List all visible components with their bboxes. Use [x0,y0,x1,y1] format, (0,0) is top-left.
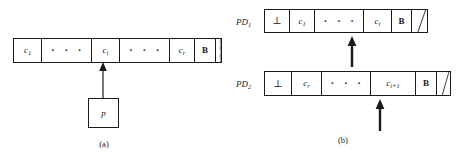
pointer-arrow-icon [95,62,111,99]
pd1-label: PD1 [236,17,251,27]
pd2-label-text: PD [236,79,248,89]
pd1-label-text: PD [236,17,248,27]
cell-symbol: · · · [320,16,357,27]
pd1-tape: ⊥ c1 · · · ci B [264,9,428,33]
pd1-label-sub: 1 [248,21,251,28]
panel-b-caption: (b) [322,135,364,145]
pd2-head-arrow [373,99,387,131]
pd2-label: PD2 [236,79,251,89]
caption-text: (b) [338,135,348,145]
cell-symbol: ci+1 [386,79,399,88]
pointer-arrow [95,62,111,99]
tape-torn-edge [412,10,427,32]
cell-symbol: ⊥ [273,79,282,89]
tape-cell[interactable]: cr [170,39,195,62]
panel-a-caption: (a) [83,139,125,149]
tape-cell[interactable]: c1 [290,10,315,32]
panel-b: PD1 ⊥ c1 · · · ci B [232,0,463,158]
tape-cell[interactable]: · · · [322,72,371,95]
panel-a: c1 · · · ci · · · cr B [0,0,232,158]
pd2-head-arrow-icon [373,99,387,131]
tape-cell[interactable]: ci+1 [371,72,416,95]
torn-edge-icon [413,10,427,32]
figure-root: c1 · · · ci · · · cr B [0,0,463,158]
pd1-head-arrow-icon [345,36,359,67]
tape-cell[interactable]: ci [92,39,120,62]
pd2-tape: ⊥ cr · · · ci+1 B [264,71,451,96]
cell-symbol: c1 [24,46,31,55]
tape-cell-blank[interactable]: B [195,39,216,62]
cell-symbol: ⊥ [272,16,281,26]
tape-cell[interactable]: ⊥ [265,72,292,95]
cell-symbol: B [202,46,208,55]
tape-torn-edge [216,39,221,62]
cell-symbol: · · · [126,45,163,56]
tape-cell-blank[interactable]: B [392,10,412,32]
cell-symbol: · · · [327,78,364,89]
pd2-label-sub: 2 [248,83,251,90]
tape-cell[interactable]: c1 [14,39,42,62]
tape-cell-blank[interactable]: B [416,72,437,95]
pointer-box[interactable]: p [88,98,119,128]
tape-cell[interactable]: cr [292,72,322,95]
cell-symbol: ci [103,46,109,55]
tape-cell[interactable]: · · · [315,10,364,32]
input-tape: c1 · · · ci · · · cr B [13,38,222,63]
tape-cell[interactable]: ⊥ [265,10,290,32]
cell-symbol: ci [375,17,381,26]
tape-cell[interactable]: · · · [120,39,170,62]
tape-cell[interactable]: ci [364,10,392,32]
cell-symbol: B [423,79,429,88]
cell-symbol: c1 [298,17,305,26]
cell-symbol: cr [179,46,186,55]
torn-edge-icon [438,72,450,95]
tape-cell[interactable]: · · · [42,39,92,62]
cell-symbol: B [398,17,404,26]
caption-text: (a) [99,139,108,149]
pointer-box-label: p [101,108,106,118]
cell-symbol: cr [303,79,310,88]
tape-torn-edge [437,72,450,95]
cell-symbol: · · · [48,45,85,56]
torn-edge-icon [217,39,221,62]
pd1-head-arrow [345,36,359,67]
